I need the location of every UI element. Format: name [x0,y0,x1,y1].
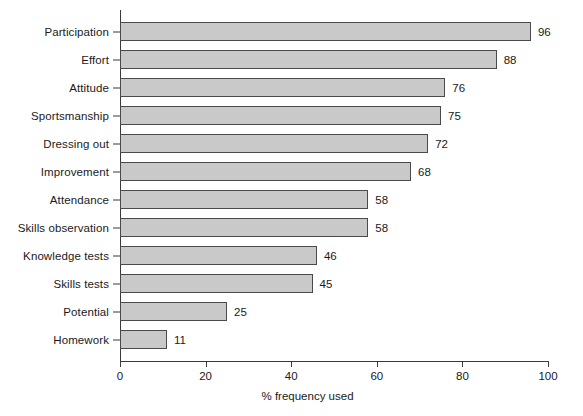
bar-row: Attendance58 [0,190,583,209]
category-label: Attitude [69,81,109,94]
bar-value-label: 88 [504,53,517,66]
y-axis-tick [113,115,120,116]
category-label: Skills observation [18,221,109,234]
y-axis-tick [113,59,120,60]
bar-row: Potential25 [0,302,583,321]
bar [120,274,313,293]
bar-row: Knowledge tests46 [0,246,583,265]
plot-area: Participation96Effort88Attitude76Sportsm… [0,0,583,416]
bar-row: Sportsmanship75 [0,106,583,125]
y-axis-tick [113,255,120,256]
category-label: Dressing out [43,137,109,150]
bar-row: Participation96 [0,22,583,41]
y-axis-tick [113,87,120,88]
category-label: Participation [44,25,109,38]
bar-row: Attitude76 [0,78,583,97]
bar [120,50,497,69]
x-axis-title-text: % frequency used [261,390,353,402]
x-axis-tick [291,361,292,367]
y-axis-tick [113,143,120,144]
category-label: Skills tests [53,277,109,290]
bar-value-label: 58 [375,221,388,234]
bar-value-label: 75 [448,109,461,122]
category-label: Knowledge tests [23,249,109,262]
bar-value-label: 25 [234,305,247,318]
bar-value-label: 96 [538,25,551,38]
x-axis-tick [548,361,549,367]
bar-value-label: 46 [324,249,337,262]
x-axis-tick [206,361,207,367]
bar [120,302,227,321]
bar [120,162,411,181]
bar-value-label: 68 [418,165,431,178]
bar [120,78,445,97]
x-axis-line [120,361,549,362]
bar-row: Skills tests45 [0,274,583,293]
bar-row: Dressing out72 [0,134,583,153]
bar-value-label: 76 [452,81,465,94]
bar [120,330,167,349]
bar-row: Skills observation58 [0,218,583,237]
x-axis-tick-label: 0 [117,370,123,383]
x-axis-tick-label: 100 [538,370,557,383]
category-label: Effort [81,53,109,66]
bar-value-label: 58 [375,193,388,206]
bar-row: Effort88 [0,50,583,69]
x-axis-tick [377,361,378,367]
bar-row: Improvement68 [0,162,583,181]
x-axis-tick [462,361,463,367]
category-label: Improvement [41,165,109,178]
x-axis-tick [120,361,121,367]
y-axis-tick [113,171,120,172]
bar [120,190,368,209]
y-axis-tick [113,199,120,200]
x-axis-tick-label: 80 [456,370,469,383]
bar-value-label: 45 [320,277,333,290]
x-axis-tick-label: 20 [199,370,212,383]
y-axis-tick [113,311,120,312]
y-axis-tick [113,283,120,284]
x-axis-tick-label: 40 [285,370,298,383]
category-label: Sportsmanship [31,109,109,122]
x-axis-title: % frequency used [0,390,583,403]
bar [120,106,441,125]
category-label: Homework [53,333,109,346]
x-axis-tick-label: 60 [370,370,383,383]
bar [120,22,531,41]
bar [120,134,428,153]
bar-chart: Participation96Effort88Attitude76Sportsm… [0,0,583,416]
bar [120,246,317,265]
category-label: Attendance [50,193,109,206]
category-label: Potential [63,305,109,318]
bar-row: Homework11 [0,330,583,349]
y-axis-tick [113,339,120,340]
bar-value-label: 72 [435,137,448,150]
bar-value-label: 11 [174,333,186,346]
y-axis-tick [113,31,120,32]
y-axis-tick [113,227,120,228]
bar [120,218,368,237]
